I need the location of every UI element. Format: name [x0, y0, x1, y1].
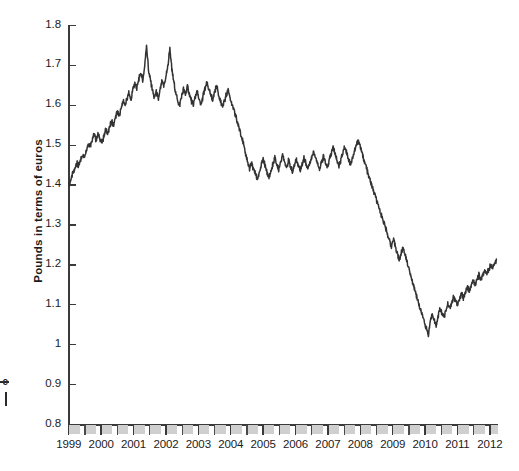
x-axis-band: [85, 425, 96, 434]
y-tick-label: 1.5: [35, 137, 61, 149]
x-minor-tick: [279, 425, 280, 435]
x-minor-tick: [473, 425, 474, 435]
x-axis-band: [69, 425, 80, 434]
x-axis-band: [134, 425, 145, 434]
x-tick-2003: [198, 425, 199, 435]
x-axis-band: [231, 425, 242, 434]
x-axis-band: [312, 425, 323, 434]
x-axis-band: [296, 425, 307, 434]
x-minor-tick: [408, 425, 409, 435]
x-tick-1999: [68, 425, 69, 435]
x-axis-band: [101, 425, 112, 434]
x-tick-2006: [295, 425, 296, 435]
x-minor-tick: [149, 425, 150, 435]
x-axis-band: [117, 425, 128, 434]
x-tick-2005: [262, 425, 263, 435]
y-tick-1.3: [69, 224, 76, 225]
y-tick-label: 0.9: [35, 377, 61, 389]
y-tick-label: 1.2: [35, 257, 61, 269]
x-axis-band: [458, 425, 469, 434]
y-tick-label: 1.3: [35, 217, 61, 229]
x-axis-band: [215, 425, 226, 434]
x-axis-band: [263, 425, 274, 434]
x-axis-band: [360, 425, 371, 434]
x-axis-band: [344, 425, 355, 434]
y-tick-1.8: [69, 25, 76, 26]
x-axis-band: [166, 425, 177, 434]
x-axis-band: [328, 425, 339, 434]
y-tick-0.9: [69, 384, 76, 385]
x-tick-2011: [457, 425, 458, 435]
x-tick-2007: [327, 425, 328, 435]
y-tick-1.1: [69, 304, 76, 305]
x-minor-tick: [344, 425, 345, 435]
x-tick-2004: [230, 425, 231, 435]
x-axis-band: [490, 425, 498, 434]
x-minor-tick: [117, 425, 118, 435]
x-tick-2009: [392, 425, 393, 435]
x-axis-band: [393, 425, 404, 434]
x-axis-band: [474, 425, 485, 434]
y-tick-label: 0.8: [35, 417, 61, 429]
x-tick-2000: [100, 425, 101, 435]
y-tick-1.5: [69, 145, 76, 146]
y-tick-label: 1: [35, 337, 61, 349]
x-tick-2008: [360, 425, 361, 435]
x-axis-band: [441, 425, 452, 434]
x-axis-band: [150, 425, 161, 434]
y-tick-label: 1.6: [35, 97, 61, 109]
y-tick-label: 1.1: [35, 297, 61, 309]
y-tick-1.7: [69, 65, 76, 66]
x-minor-tick: [84, 425, 85, 435]
exchange-rate-line: [69, 45, 497, 336]
x-axis-band: [409, 425, 420, 434]
y-tick-label: 1.4: [35, 177, 61, 189]
x-axis-band: [279, 425, 290, 434]
caption-bar: [5, 392, 7, 406]
exchange-rate-figure: e Pounds in terms of euros 1.81.71.61.51…: [0, 0, 519, 471]
x-minor-tick: [182, 425, 183, 435]
y-tick-label: 1.8: [35, 18, 61, 30]
y-tick-1.2: [69, 264, 76, 265]
x-minor-tick: [441, 425, 442, 435]
x-tick-2001: [133, 425, 134, 435]
x-tick-2002: [165, 425, 166, 435]
y-tick-1.4: [69, 184, 76, 185]
y-tick-1: [69, 344, 76, 345]
y-tick-label: 1.7: [35, 57, 61, 69]
x-tick-2010: [424, 425, 425, 435]
x-axis-band: [425, 425, 436, 434]
x-minor-tick: [376, 425, 377, 435]
x-minor-tick: [246, 425, 247, 435]
x-axis-band: [377, 425, 388, 434]
series-canvas: [0, 0, 519, 471]
y-tick-1.6: [69, 105, 76, 106]
x-minor-tick: [311, 425, 312, 435]
x-tick-2012: [489, 425, 490, 435]
x-minor-tick: [214, 425, 215, 435]
x-tick-label-2012: 2012: [468, 438, 512, 450]
x-axis-band: [198, 425, 209, 434]
x-axis-band: [247, 425, 258, 434]
caption-rule: [0, 381, 9, 383]
x-axis-band: [182, 425, 193, 434]
